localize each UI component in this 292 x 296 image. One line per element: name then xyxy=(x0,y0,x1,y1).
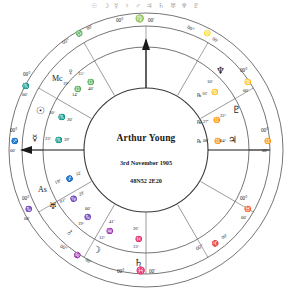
moon-min: 41' xyxy=(109,220,114,225)
mercury-deg: 23° xyxy=(45,137,51,142)
cusp-pisces-min: 00' xyxy=(149,269,155,274)
cusp-virgo-min: 00' xyxy=(148,18,154,23)
mc-arrowhead xyxy=(142,38,150,50)
mercury-sign: ♏ xyxy=(55,137,62,143)
uranus-glyph: ♅ xyxy=(49,202,57,211)
cusp-cancer-sign: ♋ xyxy=(244,79,251,85)
saturn-deg: 13° xyxy=(133,245,139,250)
saturn-min: 26' xyxy=(133,227,138,232)
chart-birth-location: 48N52 2E20 xyxy=(62,177,230,184)
cusp-gemini-sign: ♊ xyxy=(264,138,271,144)
cusp-sagittarius-deg: 00° xyxy=(10,128,17,133)
moon-sign: ♒ xyxy=(106,228,113,234)
cusp-scorpio-min: 00' xyxy=(22,93,27,98)
cusp-sagittarius-sign: ♐ xyxy=(11,138,18,144)
cusp-pisces-sign: ♓ xyxy=(136,267,145,275)
pluto-deg: 22° xyxy=(220,114,226,119)
venus-deg: 15° xyxy=(78,72,84,77)
ascendant-label: As xyxy=(38,186,47,194)
cusp-taurus-min: 00' xyxy=(241,216,246,221)
mars-sign: ♑ xyxy=(84,214,91,220)
venus-min: 40' xyxy=(88,87,93,92)
chart-subject-name: Arthur Young xyxy=(62,133,230,143)
cusp-virgo-deg: 00° xyxy=(116,18,123,23)
chart-wheel xyxy=(6,10,286,290)
pluto-sign: ♊ xyxy=(213,117,220,123)
sun-glyph: ☉ xyxy=(36,106,45,116)
midheaven-deg: 19° xyxy=(63,82,69,87)
cusp-gemini-deg: 00° xyxy=(261,128,268,133)
mars-min: 00' xyxy=(85,207,90,212)
neptune-retrograde: ℞ xyxy=(197,93,201,98)
cusp-taurus-deg: 00° xyxy=(240,196,247,201)
saturn-sign: ♓ xyxy=(135,236,142,242)
mars-deg: 19° xyxy=(78,222,84,227)
astrology-chart-page: ☉ ☽ ☿ ♀ ♂ ♃ ♄ ♅ ♆ ♇ xyxy=(0,0,292,296)
cusp-taurus-sign: ♉ xyxy=(244,206,251,212)
saturn-glyph: ♄ xyxy=(134,258,143,268)
cusp-cancer-min: 00' xyxy=(243,89,248,94)
pluto-glyph: ♇ xyxy=(232,105,241,115)
moon-glyph: ☽ xyxy=(92,245,101,255)
pluto-min: 27' xyxy=(203,120,208,125)
cusp-capricorn-sign: ♑ xyxy=(25,206,32,212)
midheaven-label: Mc xyxy=(52,75,63,83)
venus-glyph: ♀ xyxy=(67,67,75,77)
venus-sign: ♎ xyxy=(87,79,94,85)
neptune-glyph: ♆ xyxy=(216,66,225,76)
cusp-capricorn-min: 00' xyxy=(24,217,29,222)
neptune-sign: ♋ xyxy=(211,89,218,95)
moon-deg: 12° xyxy=(99,236,105,241)
cusp-capricorn-deg: 00° xyxy=(22,196,29,201)
cusp-virgo-sign: ♍ xyxy=(135,15,144,23)
cusp-scorpio-deg: 00° xyxy=(23,72,30,77)
cusp-pisces-deg: 00° xyxy=(117,269,124,274)
neptune-deg: 10° xyxy=(207,80,213,85)
pluto-retrograde: ℞ xyxy=(197,120,201,125)
cusp-cancer-deg: 00° xyxy=(240,68,247,73)
mars-glyph: ♂ xyxy=(66,228,74,238)
neptune-min: 16' xyxy=(202,92,207,97)
midheaven-min: 14' xyxy=(72,93,77,98)
cusp-sagittarius-min: 00' xyxy=(10,149,15,154)
sun-deg: 10° xyxy=(49,111,55,116)
chart-birth-date: 3rd November 1905 xyxy=(62,159,230,166)
cusp-gemini-min: 00' xyxy=(262,149,267,154)
house-inner-circle xyxy=(84,88,208,212)
sun-min: 20' xyxy=(67,118,72,123)
mercury-glyph: ☿ xyxy=(32,134,38,143)
sun-sign: ♏ xyxy=(58,114,65,120)
cusp-scorpio-sign: ♏ xyxy=(22,83,29,89)
